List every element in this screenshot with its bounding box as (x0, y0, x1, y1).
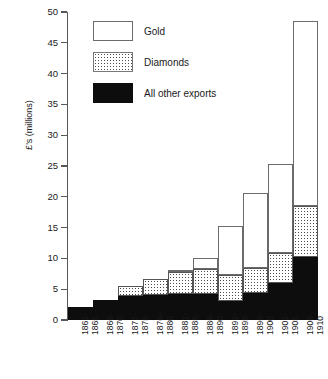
y-axis-tick-label: 25 (47, 161, 58, 171)
x-axis-label-cell: 1896-1900 (243, 323, 268, 379)
x-axis-label-cell: 1866-1870 (93, 323, 118, 379)
legend-item: All other exports (93, 82, 243, 104)
bar-segment-diamonds (193, 269, 218, 294)
legend-item: Diamonds (93, 51, 243, 73)
bar-segment-diamonds (293, 206, 318, 257)
legend-swatch-solid-black-box (93, 83, 133, 103)
bar-segment-diamonds (268, 253, 293, 283)
x-axis-label-cell: 1886-1890 (193, 323, 218, 379)
bar-segment-diamonds (218, 275, 243, 301)
legend-item: Gold (93, 20, 243, 42)
y-axis-tick-label: 10 (47, 253, 58, 263)
bar-segment-diamonds (143, 279, 168, 296)
x-axis-label-cell: 1881-1885 (168, 323, 193, 379)
stacked-bar-chart: £'s (millions) 05101520253035404550 1861… (0, 0, 328, 379)
bar-column (293, 12, 318, 320)
y-axis-ticks: 05101520253035404550 (0, 12, 67, 320)
y-axis-tick-label: 45 (47, 38, 58, 48)
bar-segment-gold (268, 164, 293, 254)
legend: GoldDiamondsAll other exports (93, 20, 243, 113)
x-axis-label-cell: 1876-1880 (143, 323, 168, 379)
bar-column (268, 12, 293, 320)
y-axis-tick-label: 0 (53, 315, 58, 325)
bar-segment-gold (218, 226, 243, 275)
x-axis-label-cell: 1891-1895 (218, 323, 243, 379)
y-axis-tick-label: 20 (47, 192, 58, 202)
y-axis-tick-label: 5 (53, 284, 58, 294)
bar-column (243, 12, 268, 320)
bar-column (68, 12, 93, 320)
x-axis-label-cell: 1906-1910 (293, 323, 318, 379)
bar-segment-diamonds (118, 286, 143, 296)
legend-label: Gold (144, 26, 165, 37)
bar-segment-gold (243, 193, 268, 268)
bar-segment-gold (193, 258, 218, 269)
bar-segment-other (293, 257, 318, 320)
legend-swatch-stippled-box (93, 52, 133, 72)
legend-label: Diamonds (144, 57, 189, 68)
bar-segment-diamonds (168, 272, 193, 294)
x-axis-tick-label: 1906-1910 (306, 313, 325, 335)
y-axis-tick-label: 35 (47, 99, 58, 109)
bar-segment-gold (293, 21, 318, 206)
legend-swatch-open-white-box (93, 21, 133, 41)
x-axis-label-cell: 1861-1865 (68, 323, 93, 379)
y-axis-tick-label: 50 (47, 7, 58, 17)
bar-segment-diamonds (243, 268, 268, 293)
y-axis-tick-label: 40 (47, 69, 58, 79)
x-axis-tick-labels: 1861-18651866-18701871-18751876-18801881… (68, 323, 318, 379)
x-axis-label-cell: 1871-1875 (118, 323, 143, 379)
legend-label: All other exports (144, 88, 216, 99)
x-axis-label-cell: 1901-1905 (268, 323, 293, 379)
y-axis-tick-label: 15 (47, 223, 58, 233)
y-axis-tick-label: 30 (47, 130, 58, 140)
